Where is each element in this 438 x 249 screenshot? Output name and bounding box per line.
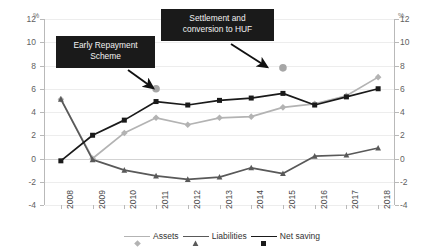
legend-item-liabilities[interactable]: Liabilities <box>183 231 247 241</box>
y-axis-tick-mark <box>395 135 399 136</box>
y-axis-tick-label-left: 6 <box>14 85 36 93</box>
y-axis-tick-mark <box>395 66 399 67</box>
x-axis-tick-label-2017: 2017 <box>350 190 360 209</box>
x-axis-tick-label-2008: 2008 <box>65 190 75 209</box>
x-axis-tick-label-2012: 2012 <box>192 190 202 209</box>
data-point-marker <box>122 118 127 123</box>
x-axis-tick-mark <box>315 205 316 209</box>
x-axis-tick-mark <box>188 205 189 209</box>
y-axis-tick-label-right: -4 <box>400 201 422 209</box>
y-axis-tick-mark <box>395 42 399 43</box>
y-axis-tick-label-left: 0 <box>14 155 36 163</box>
highlight-point-settlement-point <box>279 64 287 72</box>
y-axis-tick-label-left: -4 <box>14 201 36 209</box>
data-point-marker <box>216 115 223 122</box>
annotation-early-repayment-scheme: Early Repayment Scheme <box>56 36 155 68</box>
x-axis-tick-mark <box>93 205 94 209</box>
series-assets <box>58 74 382 162</box>
series-liabilities <box>58 96 381 182</box>
x-axis-tick-label-2010: 2010 <box>128 190 138 209</box>
y-axis-tick-mark <box>395 89 399 90</box>
data-point-marker <box>58 158 63 163</box>
legend-label: Liabilities <box>212 231 247 241</box>
data-point-marker <box>248 113 255 120</box>
y-axis-tick-label-left: 2 <box>14 131 36 139</box>
legend-label: Assets <box>153 231 179 241</box>
y-axis-right-line <box>394 19 395 205</box>
x-axis-tick-label-2015: 2015 <box>287 190 297 209</box>
legend-marker-icon <box>124 231 150 241</box>
x-axis-tick-mark <box>124 205 125 209</box>
y-axis-tick-label-left: 10 <box>14 38 36 46</box>
annotation-settlement-line1: Settlement and <box>167 13 268 24</box>
y-axis-tick-mark <box>395 19 399 20</box>
y-axis-tick-label-right: 8 <box>400 62 422 70</box>
y-axis-tick-label-right: 10 <box>400 38 422 46</box>
data-point-marker <box>184 121 191 128</box>
x-axis-tick-mark <box>378 205 379 209</box>
y-axis-tick-label-right: 0 <box>400 155 422 163</box>
legend-item-net-saving[interactable]: Net saving <box>251 231 320 241</box>
series-line <box>61 99 378 179</box>
y-axis-tick-label-left: -2 <box>14 178 36 186</box>
x-axis-tick-mark <box>251 205 252 209</box>
y-axis-tick-label-right: 4 <box>400 108 422 116</box>
data-point-marker <box>312 103 317 108</box>
data-point-marker <box>376 86 381 91</box>
y-axis-tick-mark <box>395 112 399 113</box>
y-axis-tick-label-left: 4 <box>14 108 36 116</box>
data-point-marker <box>280 104 287 111</box>
x-axis-tick-label-2011: 2011 <box>160 191 170 209</box>
y-axis-tick-label-left: 12 <box>14 15 36 23</box>
data-point-marker <box>185 103 190 108</box>
x-axis-tick-mark <box>220 205 221 209</box>
data-point-marker <box>154 99 159 104</box>
annotation-early-line1: Early Repayment <box>62 40 149 51</box>
data-point-marker <box>90 133 95 138</box>
data-point-marker <box>280 91 285 96</box>
legend-item-assets[interactable]: Assets <box>124 231 179 241</box>
x-axis-tick-label-2013: 2013 <box>224 190 234 209</box>
y-axis-tick-label-right: 2 <box>400 131 422 139</box>
chart-legend: AssetsLiabilitiesNet saving <box>124 228 320 244</box>
y-axis-tick-label-right: 6 <box>400 85 422 93</box>
chart-container: % % 121086420-2-4 121086420-2-4 20082009… <box>0 0 438 249</box>
annotation-settlement-conversion: Settlement and conversion to HUF <box>161 9 274 41</box>
x-axis-tick-label-2016: 2016 <box>319 190 329 209</box>
x-axis-tick-label-2009: 2009 <box>97 190 107 209</box>
y-axis-tick-label-right: -2 <box>400 178 422 186</box>
x-axis-tick-mark <box>61 205 62 209</box>
y-axis-tick-mark <box>395 159 399 160</box>
legend-label: Net saving <box>280 231 320 241</box>
x-axis-tick-mark <box>283 205 284 209</box>
x-axis-tick-label-2014: 2014 <box>255 190 265 209</box>
y-axis-tick-mark <box>395 182 399 183</box>
data-point-marker <box>344 94 349 99</box>
legend-marker-icon <box>251 231 277 241</box>
y-axis-tick-label-right: 12 <box>400 15 422 23</box>
highlight-point-early-repayment-point <box>152 85 160 93</box>
x-axis-tick-mark <box>156 205 157 209</box>
x-axis-tick-label-2018: 2018 <box>382 190 392 209</box>
data-point-marker <box>153 115 160 122</box>
annotation-settlement-line2: conversion to HUF <box>167 24 268 35</box>
data-point-marker <box>217 98 222 103</box>
series-net-saving <box>58 86 380 163</box>
y-axis-tick-mark <box>395 205 399 206</box>
data-point-marker <box>249 96 254 101</box>
annotation-early-line2: Scheme <box>62 51 149 62</box>
x-axis-tick-mark <box>346 205 347 209</box>
y-axis-tick-mark <box>40 205 44 206</box>
legend-marker-icon <box>183 231 209 241</box>
y-axis-tick-label-left: 8 <box>14 62 36 70</box>
